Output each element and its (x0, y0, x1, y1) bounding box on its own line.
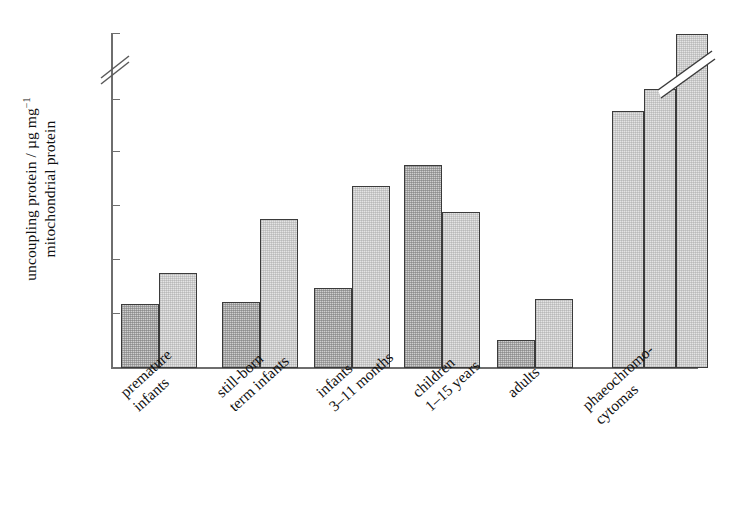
bar-children-1-15-years-1 (404, 165, 442, 368)
bar-phaeochromocytomas-2 (644, 89, 676, 368)
bar-phaeochromocytomas-1 (612, 111, 644, 368)
bar-adults-2 (535, 299, 573, 368)
bar-chart-figure: uncoupling protein / µg mg−1mitochondria… (0, 0, 738, 509)
bar-break-icon (655, 46, 717, 108)
bars-layer (0, 0, 738, 368)
